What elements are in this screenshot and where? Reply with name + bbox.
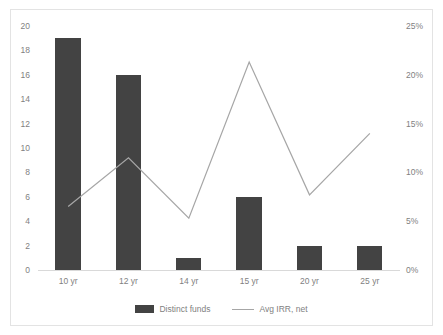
left-axis-tick: 8 xyxy=(25,167,30,177)
legend-label-distinct-funds: Distinct funds xyxy=(159,304,210,314)
right-percent-axis: 0%5%10%15%20%25% xyxy=(402,0,440,335)
category-axis-label: 25 yr xyxy=(340,275,400,287)
chart-legend: Distinct funds Avg IRR, net xyxy=(0,301,443,317)
category-axis-label: 14 yr xyxy=(159,275,219,287)
right-axis-tick: 10% xyxy=(406,167,423,177)
left-value-axis: 02468101214161820 xyxy=(0,0,34,335)
left-axis-tick: 0 xyxy=(25,265,30,275)
left-axis-tick: 6 xyxy=(25,192,30,202)
category-axis-label: 12 yr xyxy=(98,275,158,287)
category-axis-label: 20 yr xyxy=(279,275,339,287)
legend-item-avg-irr: Avg IRR, net xyxy=(232,304,307,314)
right-axis-tick: 15% xyxy=(406,119,423,129)
line-series-avg-irr xyxy=(38,26,400,270)
right-axis-tick: 0% xyxy=(406,265,418,275)
left-axis-tick: 14 xyxy=(21,94,30,104)
bar-swatch-icon xyxy=(135,305,154,313)
left-axis-tick: 16 xyxy=(21,70,30,80)
right-axis-tick: 5% xyxy=(406,216,418,226)
avg-irr-polyline xyxy=(68,62,370,218)
right-axis-tick: 25% xyxy=(406,21,423,31)
left-axis-tick: 18 xyxy=(21,45,30,55)
left-axis-tick: 2 xyxy=(25,241,30,251)
plot-area xyxy=(38,26,400,270)
left-axis-tick: 20 xyxy=(21,21,30,31)
category-axis-labels: 10 yr12 yr14 yr15 yr20 yr25 yr xyxy=(38,275,400,289)
legend-label-avg-irr: Avg IRR, net xyxy=(259,304,307,314)
category-axis-line xyxy=(38,270,400,271)
legend-item-distinct-funds: Distinct funds xyxy=(135,304,210,314)
line-swatch-icon xyxy=(232,309,254,310)
chart-container: 02468101214161820 0%5%10%15%20%25% 10 yr… xyxy=(0,0,443,335)
left-axis-tick: 4 xyxy=(25,216,30,226)
right-axis-tick: 20% xyxy=(406,70,423,80)
category-axis-label: 10 yr xyxy=(38,275,98,287)
left-axis-tick: 10 xyxy=(21,143,30,153)
left-axis-tick: 12 xyxy=(21,119,30,129)
category-axis-label: 15 yr xyxy=(219,275,279,287)
